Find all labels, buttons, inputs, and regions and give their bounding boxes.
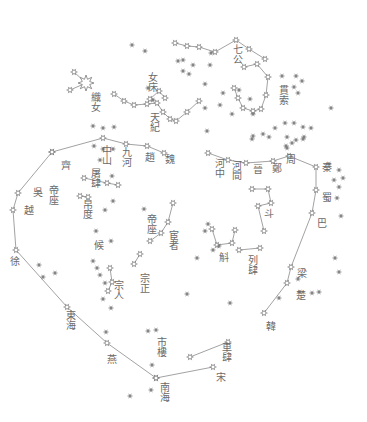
small-star-icon <box>94 266 99 271</box>
small-star-icon <box>272 126 277 131</box>
small-star-icon <box>308 126 313 131</box>
star-label: 織女 <box>89 92 99 112</box>
star-icon <box>264 186 271 192</box>
small-star-icon <box>93 229 98 234</box>
small-star-icon <box>145 329 150 334</box>
small-star-icon <box>340 176 345 181</box>
star-icon <box>12 247 19 253</box>
small-star-icon <box>260 132 265 137</box>
star-label: 趙 <box>143 152 153 162</box>
star-icon <box>261 56 268 62</box>
small-star-icon <box>309 291 314 296</box>
small-star-icon <box>90 124 95 129</box>
small-star-icon <box>338 214 343 219</box>
star-icon <box>256 245 263 251</box>
star-icon <box>208 226 215 232</box>
star-label: 屠肆 <box>89 168 99 188</box>
small-star-icon <box>204 129 209 134</box>
star-icon <box>80 175 87 181</box>
small-star-icon <box>217 103 222 108</box>
star-icon <box>186 354 193 360</box>
star-icon <box>260 228 267 234</box>
star-label: 帛度 <box>81 199 91 219</box>
small-star-icon <box>293 74 298 79</box>
star-label: 河間 <box>230 160 240 180</box>
small-star-icon <box>229 112 234 117</box>
small-star-icon <box>194 256 199 261</box>
small-star-icon <box>202 82 207 87</box>
star-label: 市樓 <box>155 337 165 357</box>
small-star-icon <box>190 63 195 68</box>
star-icon <box>183 43 190 49</box>
small-star-icon <box>247 97 252 102</box>
small-star-icon <box>279 74 284 79</box>
small-star-icon <box>266 135 271 140</box>
small-star-icon <box>236 88 241 93</box>
star-icon <box>312 164 319 170</box>
small-star-icon <box>153 328 158 333</box>
star-icon <box>9 207 16 213</box>
star-icon <box>264 74 271 80</box>
small-star-icon <box>102 208 107 213</box>
star-icon <box>283 280 290 286</box>
small-star-icon <box>52 271 57 276</box>
star-icon <box>14 190 21 196</box>
small-star-icon <box>299 79 304 84</box>
small-star-icon <box>334 196 339 201</box>
small-star-icon <box>141 207 146 212</box>
star-label: 東海 <box>64 310 74 330</box>
star-icon <box>254 203 261 209</box>
small-star-icon <box>210 248 215 253</box>
small-star-icon <box>91 144 96 149</box>
star-icon <box>114 182 121 188</box>
star-icon <box>48 149 55 155</box>
small-star-icon <box>142 49 147 54</box>
small-star-icon <box>282 121 287 126</box>
star-icon <box>130 102 137 108</box>
small-star-icon <box>291 121 296 126</box>
small-star-icon <box>148 388 153 393</box>
star-label: 魏 <box>163 154 173 164</box>
star-icon <box>262 92 269 98</box>
star-icon <box>66 87 73 93</box>
constellation-guan-suo <box>234 64 268 111</box>
star-icon <box>260 310 267 316</box>
star-icon <box>248 186 255 192</box>
small-star-icon <box>284 135 289 140</box>
small-star-icon <box>316 290 321 295</box>
small-star-icon <box>328 106 333 111</box>
small-star-icon <box>108 306 113 311</box>
small-star-icon <box>180 69 185 74</box>
star-label: 周 <box>284 154 294 164</box>
star-label: 貫索 <box>277 85 287 105</box>
small-star-icon <box>110 199 115 204</box>
star-icon <box>99 135 106 141</box>
star-label: 鄭 <box>270 163 280 173</box>
star-icon <box>136 251 143 257</box>
star-label: 徐 <box>8 256 18 266</box>
small-star-icon <box>207 63 212 68</box>
star-icon <box>153 100 160 106</box>
star-icon <box>312 187 319 193</box>
small-star-icon <box>100 126 105 131</box>
small-star-icon <box>205 222 210 227</box>
star-icon <box>239 105 246 111</box>
star-label: 南海 <box>158 382 168 402</box>
star-icon <box>240 64 247 70</box>
small-star-icon <box>90 259 95 264</box>
star-icon <box>209 364 216 370</box>
star-label: 晉 <box>251 164 261 174</box>
small-star-icon <box>293 138 298 143</box>
star-label: 韓 <box>264 321 274 331</box>
star-icon <box>308 210 315 216</box>
star-icon <box>171 40 178 46</box>
small-star-icon <box>202 106 207 111</box>
star-label: 蜀 <box>320 192 330 202</box>
small-star-icon <box>220 91 225 96</box>
star-icon <box>228 240 235 246</box>
star-label: 帝座 <box>145 214 155 234</box>
star-label: 宋 <box>214 372 224 382</box>
star-label: 宦者 <box>167 230 177 250</box>
star-label: 斗 <box>262 208 272 218</box>
small-star-icon <box>129 43 134 48</box>
